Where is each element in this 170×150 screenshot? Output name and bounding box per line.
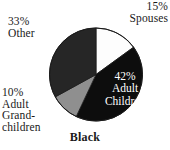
slice-label-adult-children-percent: 42% <box>92 70 158 82</box>
slice-label-other: 33% Other <box>8 16 64 39</box>
slice-label-other-name: Other <box>8 28 64 40</box>
slice-label-spouses: 15% Spouses <box>104 1 168 24</box>
slice-label-adult-children: 42% Adult Children <box>92 70 158 107</box>
slice-label-adult-grandchildren-percent: 10% <box>2 87 62 99</box>
slice-label-spouses-percent: 15% <box>104 1 168 13</box>
pie-chart-figure: 15% Spouses 33% Other 10% Adult Grand- c… <box>0 0 170 150</box>
slice-label-adult-children-name-line2: Children <box>92 95 158 107</box>
slice-label-other-percent: 33% <box>8 16 64 28</box>
slice-label-adult-grandchildren: 10% Adult Grand- children <box>2 87 62 134</box>
slice-label-adult-children-name-line1: Adult <box>92 82 158 94</box>
slice-label-spouses-name: Spouses <box>104 13 168 25</box>
chart-caption: Black <box>0 130 170 145</box>
